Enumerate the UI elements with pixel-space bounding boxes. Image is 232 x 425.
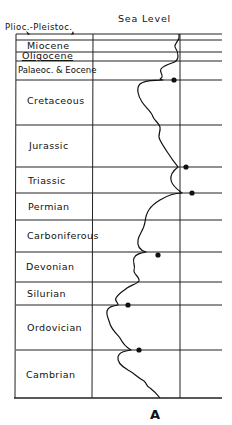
- period-label-ordovician: Ordovician: [27, 322, 82, 333]
- period-label-permian: Permian: [28, 201, 70, 212]
- sea-level-curve: [107, 34, 182, 398]
- boundary-markers: [125, 77, 194, 352]
- sea-level-heading: Sea Level: [118, 13, 171, 24]
- period-label-cambrian: Cambrian: [26, 369, 75, 380]
- marker-dot-icon: [125, 302, 130, 307]
- sea-level-diagram: Sea Level Plioc.-Pleistoc. Miocene Oligo…: [0, 0, 232, 425]
- period-label-cretaceous: Cretaceous: [27, 95, 85, 106]
- figure-label: A: [150, 407, 160, 422]
- period-labels: Miocene Oligocene Palaeoc. & Eocene Cret…: [18, 40, 99, 380]
- stratigraphic-grid: [14, 34, 222, 398]
- period-label-jurassic: Jurassic: [28, 140, 69, 151]
- period-label-silurian: Silurian: [27, 288, 66, 299]
- period-label-devonian: Devonian: [26, 261, 74, 272]
- marker-dot-icon: [171, 77, 176, 82]
- period-label-oligocene: Oligocene: [22, 50, 73, 61]
- marker-dot-icon: [136, 347, 141, 352]
- period-label-carboniferous: Carboniferous: [27, 230, 99, 241]
- period-label-palaeoc-eocene: Palaeoc. & Eocene: [18, 65, 96, 75]
- marker-dot-icon: [183, 164, 188, 169]
- marker-dot-icon: [155, 252, 160, 257]
- plioc-pleistoc-label: Plioc.-Pleistoc.: [5, 22, 72, 32]
- period-label-triassic: Triassic: [27, 175, 66, 186]
- marker-dot-icon: [189, 190, 194, 195]
